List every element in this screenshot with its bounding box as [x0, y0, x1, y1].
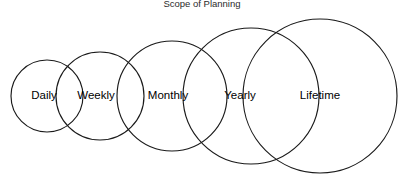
circle-label-monthly: Monthly [148, 89, 189, 101]
venn-diagram-canvas: Scope of Planning Daily Weekly Monthly Y… [0, 0, 404, 185]
circle-label-yearly: Yearly [224, 89, 256, 101]
scope-of-planning-diagram: Scope of Planning Daily Weekly Monthly Y… [0, 0, 404, 185]
circle-label-weekly: Weekly [77, 89, 115, 101]
diagram-title: Scope of Planning [163, 0, 240, 9]
circle-label-lifetime: Lifetime [300, 89, 340, 101]
circle-label-daily: Daily [31, 89, 57, 101]
